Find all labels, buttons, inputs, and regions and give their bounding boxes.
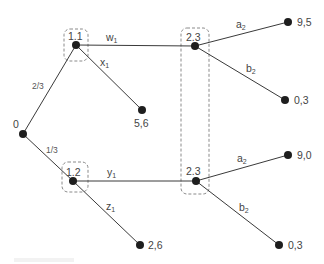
action-w1: w1 <box>105 31 118 44</box>
payoff-0-3-lower: 0,3 <box>288 239 303 251</box>
edge-x1 <box>76 45 142 110</box>
terminal-9-5 <box>284 18 292 26</box>
action-upper-a2: a2 <box>236 18 246 31</box>
edge-w1 <box>76 45 195 46</box>
edge-root-to-1-1 <box>23 45 76 134</box>
payoff-9-0: 9,0 <box>297 149 312 161</box>
edge-z1 <box>73 181 140 245</box>
node-1-2-label: 1.2 <box>66 166 81 178</box>
payoff-0-3-upper: 0,3 <box>294 94 309 106</box>
action-y1: y1 <box>107 166 116 179</box>
action-z1: z1 <box>106 200 115 213</box>
game-tree: 0 1.1 1.2 2.3 2.3 2/3 1/3 w1 x1 y1 z1 a2… <box>0 0 324 264</box>
root-label: 0 <box>13 118 19 130</box>
action-upper-b2: b2 <box>246 62 256 75</box>
clipped-caption-fragment <box>14 258 74 262</box>
payoff-5-6: 5,6 <box>134 117 149 129</box>
prob-lower: 1/3 <box>46 145 58 155</box>
terminal-5-6 <box>138 106 146 114</box>
node-2-3-upper <box>191 42 199 50</box>
node-1-1 <box>72 41 80 49</box>
edge-upper-b2 <box>195 46 285 100</box>
node-1-2 <box>69 177 77 185</box>
root-node <box>19 130 27 138</box>
payoff-9-5: 9,5 <box>297 16 312 28</box>
action-lower-b2: b2 <box>239 201 249 214</box>
terminal-0-3-upper <box>281 96 289 104</box>
node-2-3-lower-label: 2.3 <box>186 165 201 177</box>
node-1-1-label: 1.1 <box>68 30 83 42</box>
terminal-9-0 <box>284 151 292 159</box>
action-x1: x1 <box>100 56 109 69</box>
node-2-3-lower <box>192 177 200 185</box>
payoff-2-6: 2,6 <box>148 239 163 251</box>
prob-upper: 2/3 <box>32 81 44 91</box>
edge-lower-b2 <box>196 181 279 245</box>
action-lower-a2: a2 <box>237 152 247 165</box>
terminal-2-6 <box>136 241 144 249</box>
node-2-3-upper-label: 2.3 <box>186 31 201 43</box>
terminal-0-3-lower <box>275 241 283 249</box>
